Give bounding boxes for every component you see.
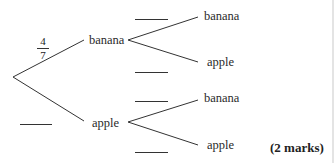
blank-apple-apple-probability[interactable] bbox=[135, 152, 168, 153]
marks-label: (2 marks) bbox=[270, 140, 324, 156]
fraction-denominator: 7 bbox=[37, 49, 49, 61]
node-apple-apple: apple bbox=[207, 138, 234, 152]
node-first-banana: banana bbox=[89, 33, 124, 47]
node-banana-banana: banana bbox=[204, 9, 239, 23]
blank-first-apple-probability[interactable] bbox=[20, 124, 52, 125]
branch-probability-first-banana: 4 7 bbox=[37, 36, 49, 61]
tree-diagram-lines bbox=[0, 0, 334, 163]
node-first-apple: apple bbox=[92, 116, 119, 130]
fraction-numerator: 4 bbox=[37, 36, 49, 49]
blank-apple-banana-probability[interactable] bbox=[135, 101, 168, 102]
node-banana-apple: apple bbox=[207, 55, 234, 69]
node-apple-banana: banana bbox=[204, 91, 239, 105]
blank-banana-apple-probability[interactable] bbox=[135, 72, 168, 73]
blank-banana-banana-probability[interactable] bbox=[135, 19, 168, 20]
